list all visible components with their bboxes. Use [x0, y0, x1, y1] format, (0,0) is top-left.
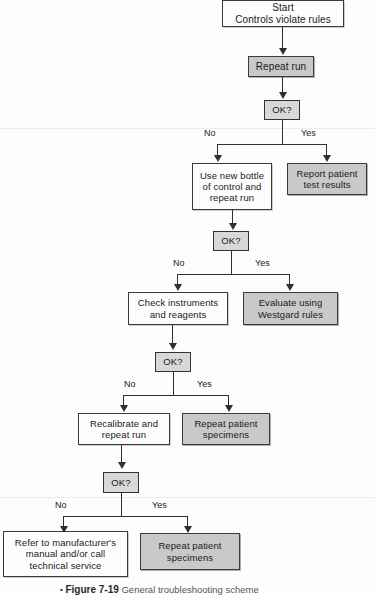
- node-report-patient-test-results: Report patient test results: [287, 163, 367, 195]
- edge-start-to-repeat-run: [282, 27, 283, 49]
- node-repeat-patient-specimens-2: Repeat patient specimens: [140, 533, 240, 570]
- edge-ok1-stem: [282, 120, 283, 145]
- arrow-head: [174, 284, 182, 291]
- branch-label-yes-4: Yes: [152, 500, 167, 510]
- edge-ok3-stem: [173, 372, 174, 396]
- node-refer-to-manufacturer: Refer to manufacturer's manual and/or ca…: [3, 531, 128, 577]
- arrow-head: [225, 405, 233, 412]
- arrow-head: [279, 48, 287, 55]
- figure-caption: • Figure 7-19 General troubleshooting sc…: [60, 584, 259, 595]
- arrow-head: [286, 284, 294, 291]
- arrow-head: [229, 223, 237, 230]
- node-repeat-patient-specimens-1: Repeat patient specimens: [182, 413, 270, 445]
- branch-label-yes-1: Yes: [301, 128, 316, 138]
- branch-label-no-3: No: [124, 379, 136, 389]
- edge-check-inst-to-ok3: [172, 325, 173, 343]
- arrow-head: [323, 155, 331, 162]
- edge-ok1-split: [217, 144, 327, 145]
- branch-label-no-4: No: [55, 500, 67, 510]
- figure-page: Start Controls violate rules Repeat run …: [0, 0, 375, 595]
- edge-ok3-split: [123, 395, 229, 396]
- caption-bullet: •: [60, 585, 63, 594]
- figure-caption-text: General troubleshooting scheme: [121, 584, 258, 595]
- branch-label-no-2: No: [173, 258, 185, 268]
- edge-ok2-split: [177, 274, 290, 275]
- node-recalibrate: Recalibrate and repeat run: [78, 413, 170, 445]
- edge-ok2-stem: [231, 251, 232, 275]
- arrow-head: [169, 343, 177, 350]
- arrow-head: [279, 92, 287, 99]
- scan-artifact: [0, 497, 375, 498]
- arrow-head: [214, 155, 222, 162]
- edge-new-bottle-to-ok2: [232, 210, 233, 224]
- node-repeat-run: Repeat run: [248, 56, 314, 77]
- node-ok-decision-2: OK?: [213, 231, 249, 251]
- branch-label-yes-2: Yes: [255, 258, 270, 268]
- node-evaluate-westgard: Evaluate using Westgard rules: [243, 292, 338, 325]
- node-use-new-bottle: Use new bottle of control and repeat run: [192, 163, 272, 210]
- arrow-head: [184, 526, 192, 533]
- arrow-head: [120, 405, 128, 412]
- edge-recalibrate-to-ok4: [121, 445, 122, 463]
- node-start: Start Controls violate rules: [222, 0, 344, 27]
- figure-number: Figure 7-19: [65, 584, 118, 595]
- node-ok-decision-3: OK?: [155, 352, 191, 372]
- arrow-head: [118, 462, 126, 469]
- branch-label-yes-3: Yes: [197, 379, 212, 389]
- edge-ok4-stem: [121, 493, 122, 517]
- node-ok-decision-4: OK?: [103, 472, 139, 493]
- branch-label-no-1: No: [204, 128, 216, 138]
- edge-ok4-split: [63, 516, 188, 517]
- node-ok-decision-1: OK?: [264, 100, 300, 120]
- edge-repeat-run-to-ok1: [282, 77, 283, 93]
- node-check-instruments: Check instruments and reagents: [128, 292, 228, 325]
- scan-artifact: [0, 128, 375, 129]
